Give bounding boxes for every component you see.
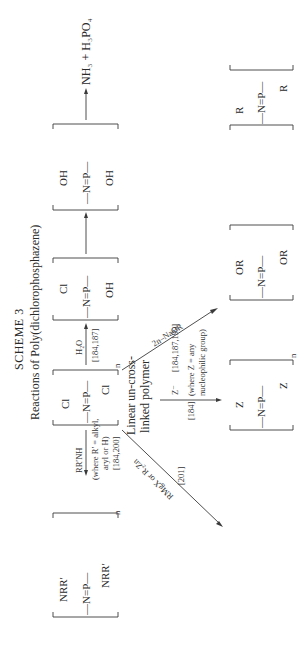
int1-sub-bottom: OH [104,282,115,298]
organometallic-refs: [201] [176,467,186,485]
scheme-title: SCHEME 3 [12,308,27,370]
amine-repeat: n [112,511,122,515]
int2-sub-bottom: OH [104,170,115,186]
z-repeat: n [288,354,298,358]
int1-sub-top: Cl [58,284,69,294]
int2-backbone: —N=P— [81,162,92,204]
nucleophile-condition-2: nucleophilic group) [197,329,207,396]
r-sub-bottom: R [278,85,289,92]
alkoxide-refs: [184,187,199] [170,324,180,372]
hydrolysis-products: NH₃ + H₃PO₄ [79,18,94,85]
hydrolysis-reagent: H₂O [74,340,84,355]
hydrolysis-refs: [184,187] [90,329,100,362]
or-sub-top: OR [234,260,245,275]
scheme-subtitle: Reactions of Poly(dichlorophosphazene) [28,225,43,420]
z-sub-top: Z [234,401,245,408]
r-backbone: —N=P— [256,82,267,124]
central-sub-bottom: Cl [100,385,111,395]
nucleophile-condition-1: (where Z = any [186,344,196,396]
int1-backbone: —N=P— [81,276,92,318]
r-sub-top: R [234,107,245,114]
int2-sub-top: OH [58,170,69,186]
amine-refs: [184,200] [111,437,121,470]
nucleophile-reagent: Z⁻ [170,385,180,395]
amine-sub-top: NRR′ [58,577,69,602]
central-backbone: —N=P— [81,381,92,423]
nucleophile-refs: [184] [186,402,196,420]
z-sub-bottom: Z [278,382,289,389]
central-repeat: n [112,364,122,368]
or-sub-bottom: OR [278,250,289,265]
central-note-1: Linear un-cross- [124,356,139,435]
amine-reagent: RR′NH [74,448,84,473]
amine-condition-2: aryl or H) [100,436,110,470]
amine-backbone: —N=P— [81,573,92,615]
or-backbone: —N=P— [256,256,267,298]
amine-sub-bottom: NRR′ [100,563,111,588]
scheme-page: SCHEME 3 Reactions of Poly(dichlorophosp… [0,0,303,670]
z-backbone: —N=P— [256,386,267,428]
amine-condition-1: (where R′ = alkyl, [90,419,100,480]
central-note-2: linked polymer [138,360,153,433]
central-sub-top: Cl [60,399,71,409]
